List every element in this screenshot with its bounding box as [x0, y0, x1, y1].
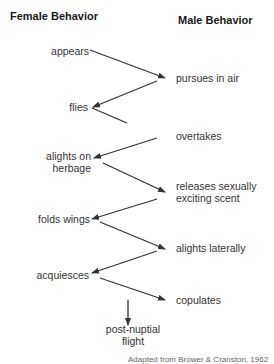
arrow-acquiesces-to-copulates	[100, 278, 165, 300]
arrow-herbage-to-releases	[103, 163, 165, 192]
arrow-pursues-to-flies	[93, 81, 157, 107]
arrow-alights-laterally-to-acquiesces	[92, 251, 157, 273]
arrow-folds-to-alights-laterally	[100, 222, 165, 249]
arrow-flies-to-overtakes	[92, 108, 127, 123]
arrow-overtakes-to-alights	[94, 138, 157, 158]
arrow-releases-to-folds	[92, 199, 157, 219]
arrow-appears-to-pursues	[90, 50, 165, 78]
source-caption: Adapted from Brower & Cranston, 1962	[128, 355, 268, 364]
